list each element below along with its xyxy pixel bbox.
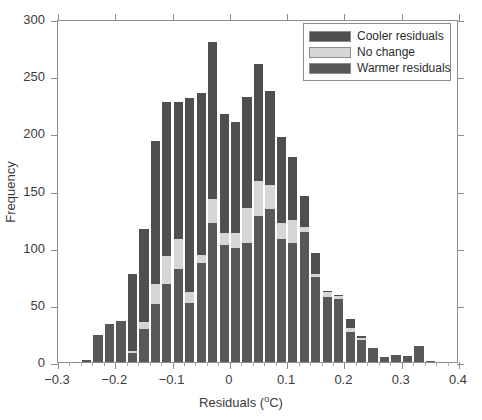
bar-segment (242, 243, 251, 362)
x-tick-label: 0 (225, 372, 232, 387)
bar-segment (414, 346, 423, 362)
bar-segment (139, 229, 148, 322)
histogram-bar (288, 157, 297, 362)
bar-segment (242, 97, 251, 208)
bar-segment (254, 216, 263, 362)
bar-segment (254, 64, 263, 182)
x-tick-label: 0.2 (334, 372, 352, 387)
histogram-bar (116, 321, 125, 362)
histogram-bar (323, 291, 332, 362)
bar-segment (128, 353, 137, 362)
bar-segment (174, 269, 183, 362)
histogram-bar (265, 91, 274, 362)
x-axis-title-main: Residuals ( (199, 395, 264, 410)
x-tick-mark-minor (276, 362, 277, 366)
x-tick-mark-minor (356, 362, 357, 366)
x-tick-mark-top (459, 14, 460, 21)
y-tick-mark-right (457, 78, 464, 79)
bar-segment (162, 256, 171, 285)
bar-segment (403, 356, 412, 362)
x-tick-mark-minor (195, 362, 196, 366)
y-tick-mark-right (457, 307, 464, 308)
histogram-bar (346, 319, 355, 362)
bar-segment (311, 277, 320, 362)
bar-segment (288, 243, 297, 362)
bar-segment (151, 284, 160, 303)
y-tick-mark (51, 78, 58, 79)
x-tick-mark-minor (322, 362, 323, 366)
bar-segment (346, 319, 355, 328)
histogram-bar (82, 360, 91, 362)
y-tick-mark-right (457, 193, 464, 194)
legend-item[interactable]: Warmer residuals (309, 60, 445, 76)
histogram-bar (105, 324, 114, 362)
bar-segment (368, 348, 377, 362)
bar-segment (277, 239, 286, 362)
y-tick-mark (51, 135, 58, 136)
legend-item[interactable]: Cooler residuals (309, 28, 445, 44)
x-tick-mark-minor (207, 362, 208, 366)
histogram-bar (128, 274, 137, 362)
histogram-bar (174, 102, 183, 362)
y-tick-mark (51, 250, 58, 251)
x-tick-mark-minor (81, 362, 82, 366)
x-tick-mark-top (287, 14, 288, 21)
bar-segment (151, 304, 160, 362)
bar-segment (242, 208, 251, 243)
bar-segment (334, 299, 343, 362)
x-tick-mark-minor (150, 362, 151, 366)
legend-swatch (309, 47, 351, 58)
bar-segment (231, 248, 240, 362)
histogram-bar (220, 114, 229, 362)
bar-segment (311, 253, 320, 274)
x-tick-mark (344, 362, 345, 369)
bar-segment (162, 284, 171, 362)
histogram-bar (231, 122, 240, 362)
x-tick-mark-minor (390, 362, 391, 366)
histogram-bar (300, 196, 309, 362)
x-tick-mark-minor (448, 362, 449, 366)
bar-segment (288, 157, 297, 220)
bar-segment (162, 102, 171, 255)
bar-segment (288, 220, 297, 243)
x-tick-label: 0.3 (392, 372, 410, 387)
histogram-bar (311, 253, 320, 362)
bar-segment (380, 357, 389, 362)
bar-segment (151, 141, 160, 284)
y-tick-mark (51, 193, 58, 194)
legend-label: Cooler residuals (357, 30, 444, 42)
bar-segment (105, 324, 114, 362)
bar-segment (300, 232, 309, 362)
legend-item[interactable]: No change (309, 44, 445, 60)
histogram-bar (357, 336, 366, 362)
histogram-bar (208, 42, 217, 362)
y-tick-mark (51, 21, 58, 22)
x-tick-mark (287, 362, 288, 369)
y-tick-mark-right (457, 135, 464, 136)
x-tick-mark-minor (425, 362, 426, 366)
histogram-bar (391, 355, 400, 362)
x-tick-mark-top (402, 14, 403, 21)
x-tick-mark (173, 362, 174, 369)
x-tick-label: 0.1 (277, 372, 295, 387)
x-tick-label: −0.3 (44, 372, 70, 387)
bar-segment (116, 321, 125, 362)
x-tick-mark-minor (367, 362, 368, 366)
chart-figure: 050100150200250300 −0.3−0.2−0.100.10.20.… (0, 0, 482, 420)
bar-segment (220, 245, 229, 362)
histogram-bar (162, 102, 171, 362)
x-tick-mark (58, 362, 59, 369)
legend-swatch (309, 31, 351, 42)
bar-segment (197, 93, 206, 254)
bar-segment (208, 42, 217, 199)
x-tick-mark-top (173, 14, 174, 21)
x-axis-title: Residuals (oC) (0, 394, 482, 410)
y-tick-mark-right (457, 250, 464, 251)
legend[interactable]: Cooler residualsNo changeWarmer residual… (303, 23, 451, 81)
x-tick-mark (115, 362, 116, 369)
x-tick-mark-minor (413, 362, 414, 366)
bar-segment (231, 122, 240, 233)
histogram-bar (254, 64, 263, 362)
bar-segment (346, 332, 355, 362)
x-axis-title-tail: C) (269, 395, 283, 410)
